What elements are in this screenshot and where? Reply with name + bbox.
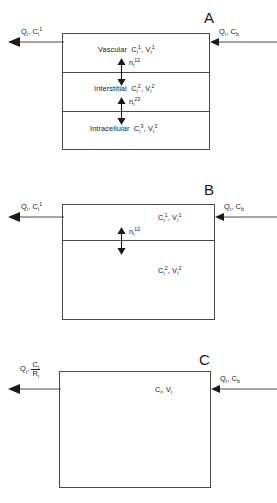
panel-a-compartment-intracellular-name: Intracellular — [90, 124, 130, 133]
panel-a-intracellular-vol-sub: i — [153, 128, 154, 134]
panel-a-compartment-interstitial-label: Interstitial Ci2, Vi2 — [94, 84, 155, 93]
panel-a-inflow-label: Qi, Cb — [219, 27, 239, 36]
panel-b-box — [62, 204, 215, 320]
panel-c-inflow-label: Qi, Cb — [220, 374, 240, 383]
panel-b-divider — [62, 240, 215, 241]
panel-c-outflow-denominator: Ri — [31, 370, 40, 378]
panel-a-divider-vascular-interstitial — [62, 72, 210, 73]
panel-letter-c: C — [199, 351, 210, 368]
panel-a-flux-23-sup: 23 — [134, 96, 140, 102]
panel-a-flux-arrow-23 — [116, 97, 127, 125]
panel-a-interstitial-vol-sub: i — [150, 88, 151, 94]
panel-a-vascular-vol-sup: 1 — [152, 44, 155, 50]
panel-c-outflow-arrow — [8, 383, 61, 395]
panel-a-flux-label-12: ni12 — [129, 58, 140, 67]
panel-a-outflow-conc-sup: 1 — [39, 26, 42, 32]
panel-b-compartment-2-label: Ci2, Vi2 — [158, 266, 181, 275]
panel-b-c2-vol-sup: 2 — [178, 265, 181, 271]
panel-a-flux-12-sub: i — [133, 62, 134, 68]
panel-a-intracellular-conc-sub: i — [139, 128, 140, 134]
panel-b-flux-12-sup: 12 — [134, 226, 140, 232]
panel-letter-a: A — [204, 9, 215, 26]
panel-a-interstitial-conc-sub: i — [137, 88, 138, 94]
panel-b-flux-label-12: ni12 — [129, 227, 140, 236]
panel-b-c1-vol-sub: i — [177, 217, 178, 223]
panel-b-flux-12-sub: i — [133, 231, 134, 237]
panel-b-c2-vol-sub: i — [177, 270, 178, 276]
panel-b-c2-conc-sub: i — [163, 270, 164, 276]
panel-c-vol-sub: i — [171, 389, 172, 395]
panel-a-flux-arrow-12 — [116, 58, 127, 86]
panel-b-c1-conc-sub: i — [163, 217, 164, 223]
panel-b-outflow-conc-sup: 1 — [39, 201, 42, 207]
panel-c-outflow-den-sub: i — [38, 373, 39, 379]
panel-a-inflow-conc-sub: b — [236, 31, 239, 37]
panel-c-outflow-fraction: CiRi — [31, 361, 40, 378]
panel-a-interstitial-vol-sup: 2 — [152, 83, 155, 89]
panel-a-compartment-vascular-name: Vascular — [98, 45, 127, 54]
panel-b-inflow-conc-sub: b — [241, 206, 244, 212]
panel-b-compartment-1-label: Ci1, Vi1 — [158, 213, 181, 222]
panel-c-inflow-conc-sub: b — [237, 378, 240, 384]
panel-a-compartment-vascular-label: Vascular Ci1, Vi1 — [98, 45, 155, 54]
panel-a-inflow-arrow — [210, 36, 277, 48]
panel-b-flux-arrow-12 — [116, 227, 127, 255]
panel-a-flux-label-23: ni23 — [129, 97, 140, 106]
panel-b-outflow-conc-sub: i — [38, 206, 39, 212]
panel-a-compartment-intracellular-label: Intracellular Ci3, Vi3 — [90, 124, 157, 133]
panel-c-outflow-label: Qi, CiRi — [20, 361, 40, 378]
panel-c-box — [59, 371, 211, 488]
panel-c-inflow-arrow — [211, 383, 277, 395]
panel-b-outflow-label: Qi, Ci1 — [21, 202, 42, 211]
panel-b-outflow-arrow — [8, 211, 64, 223]
panel-c-compartment-label: Ci, Vi — [155, 385, 172, 394]
panel-letter-b: B — [204, 181, 215, 198]
panel-a-outflow-conc-sub: i — [38, 31, 39, 37]
panel-a-compartment-interstitial-name: Interstitial — [94, 84, 127, 93]
panel-b-inflow-arrow — [215, 211, 277, 223]
panel-a-vascular-vol-sub: i — [150, 49, 151, 55]
panel-a-outflow-label: Qi, Ci1 — [21, 27, 42, 36]
panel-a-flux-23-sub: i — [133, 101, 134, 107]
panel-a-vascular-conc-sub: i — [137, 49, 138, 55]
panel-b-inflow-label: Qi, Cb — [224, 202, 244, 211]
panel-a-divider-interstitial-intracellular — [62, 111, 210, 112]
panel-a-flux-12-sup: 12 — [134, 57, 140, 63]
panel-a-intracellular-vol-sup: 3 — [154, 123, 157, 129]
compartment-model-figure: A Qi, Ci1 Qi, Cb Vascular Ci1, Vi1 — [0, 0, 277, 503]
panel-b-c1-vol-sup: 1 — [178, 212, 181, 218]
panel-a-outflow-arrow — [8, 36, 64, 48]
